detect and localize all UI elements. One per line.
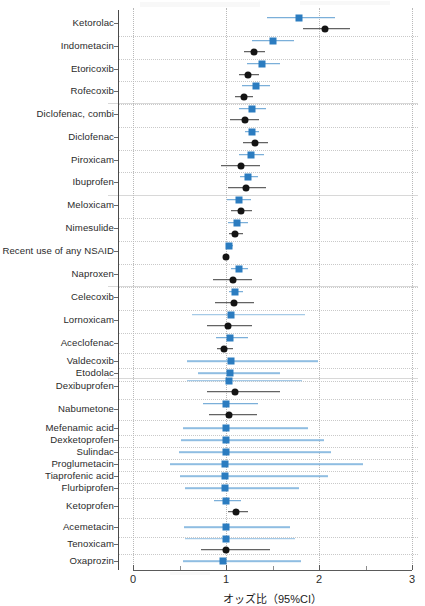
point-estimate-dark bbox=[232, 388, 239, 395]
row-tickmark bbox=[114, 343, 118, 344]
x-tick-0 bbox=[133, 565, 134, 570]
point-estimate-blue bbox=[220, 558, 227, 565]
row-label: Tenoxicam bbox=[67, 539, 114, 549]
point-estimate-blue bbox=[234, 219, 241, 226]
point-estimate-blue bbox=[248, 151, 255, 158]
point-estimate-blue bbox=[252, 82, 259, 89]
row-separator bbox=[118, 218, 418, 219]
faint-rule bbox=[108, 103, 418, 104]
row-label: Ketorolac bbox=[73, 18, 114, 28]
faint-rule bbox=[108, 286, 418, 287]
confidence-interval-dark bbox=[207, 391, 280, 393]
row-tickmark bbox=[114, 137, 118, 138]
row-label: Naproxen bbox=[72, 269, 114, 279]
confidence-interval-blue bbox=[187, 380, 302, 382]
confidence-interval-blue bbox=[185, 538, 295, 540]
point-estimate-dark bbox=[241, 116, 248, 123]
x-tick-minor bbox=[366, 566, 367, 570]
row-separator bbox=[118, 264, 418, 265]
confidence-interval-blue bbox=[181, 439, 323, 441]
point-estimate-blue bbox=[225, 242, 232, 249]
point-estimate-blue bbox=[249, 105, 256, 112]
scan-artifact bbox=[140, 2, 260, 7]
row-tickmark bbox=[114, 488, 118, 489]
point-estimate-dark bbox=[237, 162, 244, 169]
faint-rule bbox=[108, 195, 418, 196]
gridline-x-0 bbox=[133, 8, 134, 570]
row-separator bbox=[118, 333, 418, 334]
confidence-interval-blue bbox=[203, 403, 258, 405]
row-tickmark bbox=[114, 23, 118, 24]
point-estimate-blue bbox=[226, 334, 233, 341]
row-tickmark bbox=[114, 274, 118, 275]
row-separator bbox=[118, 368, 418, 369]
row-label: Diclofenac, combi bbox=[37, 109, 114, 119]
row-tickmark bbox=[114, 46, 118, 47]
row-separator bbox=[118, 447, 418, 448]
row-separator bbox=[118, 150, 418, 151]
scan-artifact bbox=[170, 572, 210, 575]
x-tick-2 bbox=[319, 565, 320, 570]
row-tickmark bbox=[114, 69, 118, 70]
row-label: Indometacin bbox=[61, 41, 114, 51]
row-label: Celecoxib bbox=[71, 292, 114, 302]
point-estimate-dark bbox=[250, 48, 257, 55]
row-tickmark bbox=[114, 440, 118, 441]
row-tickmark bbox=[114, 527, 118, 528]
row-tickmark bbox=[114, 320, 118, 321]
point-estimate-blue bbox=[227, 358, 234, 365]
y-axis-spine bbox=[118, 10, 119, 570]
x-tick-label-2: 2 bbox=[316, 573, 322, 585]
point-estimate-blue bbox=[295, 14, 302, 21]
row-tickmark bbox=[114, 506, 118, 507]
point-estimate-blue bbox=[236, 196, 243, 203]
point-estimate-dark bbox=[240, 93, 247, 100]
x-tick-3 bbox=[412, 565, 413, 570]
row-tickmark bbox=[114, 297, 118, 298]
row-separator bbox=[118, 310, 418, 311]
point-estimate-blue bbox=[225, 377, 232, 384]
row-label: Etodolac bbox=[76, 368, 114, 378]
gridline-x-3 bbox=[412, 8, 413, 570]
x-tick-label-1: 1 bbox=[223, 573, 229, 585]
point-estimate-blue bbox=[222, 485, 229, 492]
point-estimate-dark bbox=[223, 546, 230, 553]
point-estimate-dark bbox=[243, 184, 250, 191]
row-tickmark bbox=[114, 160, 118, 161]
point-estimate-blue bbox=[223, 400, 230, 407]
confidence-interval-blue bbox=[170, 463, 363, 465]
row-label: Proglumetacin bbox=[51, 459, 114, 469]
x-tick-minor bbox=[180, 566, 181, 570]
scan-artifact bbox=[300, 1, 390, 5]
confidence-interval-blue bbox=[192, 314, 305, 316]
row-label: Ketoprofen bbox=[66, 501, 114, 511]
gridline-x-2 bbox=[319, 8, 320, 570]
confidence-interval-dark bbox=[201, 549, 270, 551]
row-separator bbox=[118, 420, 418, 421]
row-label: Recent use of any NSAID bbox=[2, 246, 114, 256]
row-label: Lornoxicam bbox=[63, 315, 114, 325]
point-estimate-blue bbox=[232, 288, 239, 295]
row-separator bbox=[118, 554, 418, 555]
confidence-interval-blue bbox=[198, 372, 280, 374]
row-label: Oxaprozin bbox=[69, 556, 114, 566]
x-tick-label-3: 3 bbox=[409, 573, 415, 585]
point-estimate-dark bbox=[224, 322, 231, 329]
row-label: Mefenamic acid bbox=[45, 423, 114, 433]
row-separator bbox=[118, 81, 418, 82]
row-label: Ibuprofen bbox=[73, 177, 114, 187]
point-estimate-dark bbox=[232, 230, 239, 237]
row-label: Sulindac bbox=[76, 447, 114, 457]
row-separator bbox=[118, 59, 418, 60]
x-tick-label-0: 0 bbox=[130, 573, 136, 585]
point-estimate-blue bbox=[226, 370, 233, 377]
point-estimate-blue bbox=[227, 311, 234, 318]
point-estimate-blue bbox=[222, 461, 229, 468]
row-tickmark bbox=[114, 228, 118, 229]
row-label: Dexibuprofen bbox=[56, 381, 114, 391]
point-estimate-blue bbox=[236, 265, 243, 272]
row-tickmark bbox=[114, 361, 118, 362]
row-label: Nimesulide bbox=[66, 223, 114, 233]
point-estimate-blue bbox=[222, 473, 229, 480]
row-tickmark bbox=[114, 91, 118, 92]
